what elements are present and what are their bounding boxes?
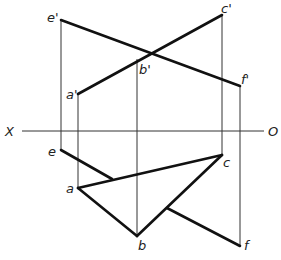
label-f: f xyxy=(244,238,251,253)
label-c: c xyxy=(223,155,230,170)
line-bc xyxy=(137,155,222,236)
axis-label-o: O xyxy=(268,124,278,139)
label-a: a xyxy=(66,181,74,196)
line-ef-segment-1 xyxy=(61,150,112,179)
line-a-prime-c-prime xyxy=(78,15,222,94)
axis-label-x: X xyxy=(4,124,15,139)
label-b-prime: b' xyxy=(139,62,151,77)
label-b: b xyxy=(138,238,146,253)
projection-drawing: X O e' c' b' f' a' e a c b f xyxy=(0,0,281,260)
label-a-prime: a' xyxy=(66,87,78,102)
label-e: e xyxy=(48,144,56,159)
line-ab xyxy=(78,188,137,236)
line-ef-segment-2 xyxy=(167,208,240,246)
label-f-prime: f' xyxy=(241,72,249,87)
label-e-prime: e' xyxy=(47,10,59,25)
label-c-prime: c' xyxy=(221,1,232,16)
